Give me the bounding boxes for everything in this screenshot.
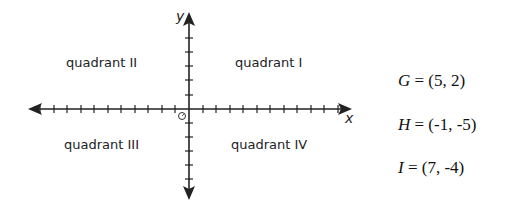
x-axis-label: x	[345, 110, 353, 126]
quadrant-iii-label: quadrant III	[64, 137, 139, 152]
point-g-value: = (5, 2)	[415, 71, 466, 90]
point-h-name: H	[398, 115, 410, 134]
point-h: H = (-1, -5)	[398, 115, 477, 135]
point-g-name: G	[398, 71, 410, 90]
point-g: G = (5, 2)	[398, 71, 465, 91]
point-i-value: = (7, -4)	[408, 158, 464, 177]
quadrant-ii-label: quadrant II	[66, 55, 137, 70]
point-i-name: I	[398, 158, 404, 177]
quadrant-i-label: quadrant I	[235, 55, 302, 70]
quadrant-iv-label: quadrant IV	[231, 137, 307, 152]
point-h-value: = (-1, -5)	[415, 115, 477, 134]
y-axis-label: y	[176, 8, 184, 24]
coordinate-plane	[0, 0, 505, 213]
point-i: I = (7, -4)	[398, 158, 464, 178]
